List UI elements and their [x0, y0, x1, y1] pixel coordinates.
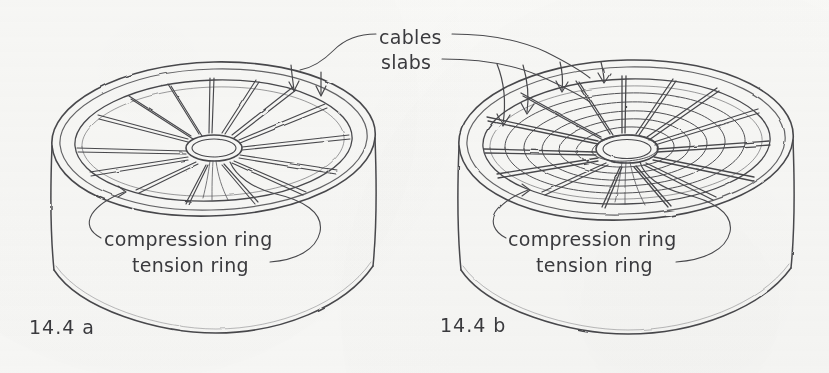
slabs-leader-b	[442, 59, 590, 102]
panel-b-load-arrows	[497, 62, 610, 126]
panel-a-tension-ring	[186, 135, 242, 161]
cables-label: cables	[379, 26, 442, 48]
cables-leader-a	[300, 34, 376, 70]
panel-b-compression-ring-label: compression ring	[508, 228, 677, 250]
panel-b-drum	[458, 60, 794, 334]
panel-b-tension-ring-label: tension ring	[536, 254, 653, 276]
figure-page: cables slabs compression ring tension ri…	[0, 0, 829, 373]
slabs-label: slabs	[381, 51, 431, 73]
panel-a-drum	[51, 62, 376, 333]
panel-b-tension-ring	[596, 135, 658, 163]
cables-leader-b	[452, 34, 590, 78]
panel-a-tension-ring-label: tension ring	[132, 254, 249, 276]
panel-a-radial-cables	[77, 78, 350, 204]
panel-a-figure-number: 14.4 a	[29, 316, 95, 338]
panel-b-figure-number: 14.4 b	[440, 314, 506, 336]
panel-a-compression-ring-label: compression ring	[104, 228, 273, 250]
